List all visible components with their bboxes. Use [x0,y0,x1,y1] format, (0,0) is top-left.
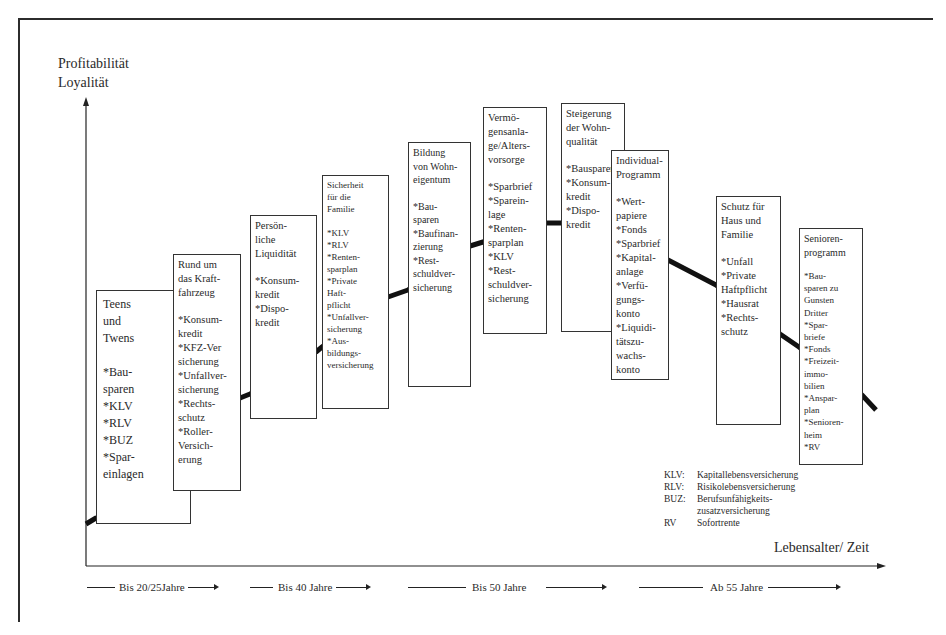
box-item: *KLV [327,227,384,239]
box-item: *KFZ-Ver sicherung [178,341,236,369]
box-item: *RV [804,441,858,453]
box-title: Teens und Twens [103,296,184,347]
box-item: *Rest- schuldver- sicherung [488,264,542,306]
legend-abbr: RV [664,517,697,529]
x-axis-arrow-icon [877,563,886,569]
box-item: *Verfü- gungs- konto [616,279,664,321]
legend-abbr: KLV: [664,469,697,481]
phase-leading-line [408,587,466,588]
legend-row: KLV: Kapitallebensversicherung [664,469,798,481]
box-item: *Dispo- kredit [255,302,312,330]
box-item: *Spar- briefe [804,319,858,343]
box-schutz-haus-familie: Schutz für Haus und Familie *Unfall *Pri… [716,196,781,425]
box-title: Senioren- programm [804,232,858,260]
box-individual-programm: Individual- Programm *Wert- papiere *Fon… [611,150,669,380]
arrow-right-icon [188,584,219,590]
box-item: *Senioren- heim [804,416,858,440]
y-axis-arrow-icon [83,97,89,106]
phase-bis-40: Bis 40 Jahre [250,581,371,593]
legend-row: RV Sofortrente [664,517,798,529]
box-rund-um-kfz: Rund um das Kraft- fahrzeug *Konsum- kre… [173,254,241,491]
box-item: *Unfallver- sicherung [178,369,236,397]
legend-definition: Berufsunfähigkeits- zusatzversicherung [697,493,772,517]
box-title: Sicherheit für die Familie [327,179,384,215]
phase-label: Ab 55 Jahre [710,581,763,593]
legend-definition: Sofortrente [697,517,740,529]
box-item: *Hausrat [721,297,776,311]
box-item: *Private Haftpflicht [721,269,776,297]
box-item: *Rest- schuldver- sicherung [413,254,466,295]
legend-abbr: RLV: [664,481,697,493]
box-item: *Wert- papiere [616,195,664,223]
box-title: Bildung von Wohn- eigentum [413,146,466,187]
x-axis-label: Lebensalter/ Zeit [774,540,869,556]
box-item: *Sparbrief [616,237,664,251]
box-item: *Freizeit- immo- bilien [804,355,858,392]
legend-definition: Risikolebensversicherung [697,481,795,493]
phase-bis-50: Bis 50 Jahre [408,581,607,593]
box-item: *BUZ [103,432,184,449]
legend-row: RLV: Risikolebensversicherung [664,481,798,493]
legend-definition: Kapitallebensversicherung [697,469,798,481]
arrow-right-icon [768,584,841,590]
box-item: *Baufinan- zierung [413,227,466,254]
box-item: *KLV [488,250,542,264]
box-item: *RLV [327,239,384,251]
box-seniorenprogramm: Senioren- programm *Bau- sparen zu Gunst… [799,228,863,465]
box-vermoegensanlage: Vermö- gensanla- ge/Alters- vorsorge *Sp… [483,107,547,334]
box-bildung-wohneigentum: Bildung von Wohn- eigentum *Bau- sparen … [408,142,471,387]
phase-bis-20-25: Bis 20/25Jahre [87,581,219,593]
box-item: *Rechts- schutz [721,311,776,339]
box-item: *Bau- sparen zu Gunsten Dritter [804,270,858,319]
abbreviation-legend: KLV: Kapitallebensversicherung RLV: Risi… [664,469,798,529]
box-title: Persön- liche Liquidität [255,219,312,261]
phase-leading-line [87,587,115,588]
box-item: *Anspar- plan [804,392,858,416]
box-title: Individual- Programm [616,154,664,182]
legend-row: BUZ: Berufsunfähigkeits- zusatzversicher… [664,493,798,517]
box-title: Vermö- gensanla- ge/Alters- vorsorge [488,111,542,167]
box-item: *Renten- sparplan [488,222,542,250]
box-item: *Konsum- kredit [178,313,236,341]
box-title: Steigerung der Wohn- qualität [566,107,620,149]
box-title: Rund um das Kraft- fahrzeug [178,258,236,300]
box-item: *Private Haft- pflicht [327,275,384,311]
box-item: *KLV [103,398,184,415]
box-item: *Roller- Versich- erung [178,425,236,467]
arrow-right-icon [546,584,607,590]
legend-abbr: BUZ: [664,493,697,517]
box-item: *Sparein- lage [488,194,542,222]
box-item: *Konsum- kredit [255,274,312,302]
box-item: *RLV [103,415,184,432]
phase-leading-line [250,587,273,588]
box-item: *Liquidi- tätszu- wachs- konto [616,321,664,377]
box-item: *Fonds [804,343,858,355]
box-item: *Unfallver- sicherung [327,311,384,335]
phase-ab-55: Ab 55 Jahre [639,581,841,593]
box-title: Schutz für Haus und Familie [721,200,776,242]
phase-label: Bis 50 Jahre [472,581,526,593]
box-item: *Bau- sparen [103,364,184,398]
box-item: *Unfall [721,255,776,269]
phase-label: Bis 40 Jahre [278,581,332,593]
box-item: *Fonds [616,223,664,237]
arrow-right-icon [336,584,371,590]
box-item: *Aus- bildungs- versicherung [327,335,384,371]
box-item: *Kapital- anlage [616,251,664,279]
box-item: *Renten- sparplan [327,251,384,275]
box-persoenliche-liquiditaet: Persön- liche Liquidität *Konsum- kredit… [250,215,317,419]
box-item: *Spar- einlagen [103,449,184,483]
box-item: *Bau- sparen [413,200,466,227]
phase-label: Bis 20/25Jahre [119,581,185,593]
box-item: *Sparbrief [488,180,542,194]
box-item: *Rechts- schutz [178,397,236,425]
phase-leading-line [639,587,703,588]
box-sicherheit-familie: Sicherheit für die Familie *KLV *RLV *Re… [322,175,389,409]
